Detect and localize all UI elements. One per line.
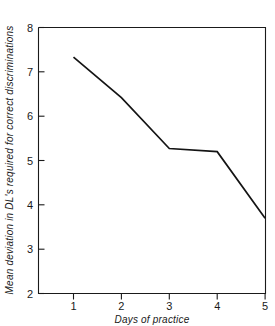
y-tick-label-4: 4 bbox=[27, 199, 33, 211]
x-axis-title: Days of practice bbox=[115, 314, 190, 325]
y-tick-label-5: 5 bbox=[27, 155, 33, 167]
y-axis-title: Mean deviation in DL's required for corr… bbox=[4, 26, 15, 295]
x-tick-label-4: 4 bbox=[214, 300, 220, 312]
line-chart: 8 7 6 5 4 3 2 1 2 3 4 5 Days bbox=[0, 0, 275, 326]
x-tick-label-5: 5 bbox=[262, 300, 268, 312]
chart-page: 8 7 6 5 4 3 2 1 2 3 4 5 Days bbox=[0, 0, 275, 326]
y-tick-label-3: 3 bbox=[27, 243, 33, 255]
y-tick-label-6: 6 bbox=[27, 110, 33, 122]
chart-background bbox=[0, 0, 275, 326]
x-tick-label-3: 3 bbox=[166, 300, 172, 312]
x-tick-label-1: 1 bbox=[70, 300, 76, 312]
y-tick-label-8: 8 bbox=[27, 22, 33, 34]
x-tick-label-2: 2 bbox=[118, 300, 124, 312]
y-tick-label-2: 2 bbox=[27, 288, 33, 300]
y-tick-label-7: 7 bbox=[27, 66, 33, 78]
